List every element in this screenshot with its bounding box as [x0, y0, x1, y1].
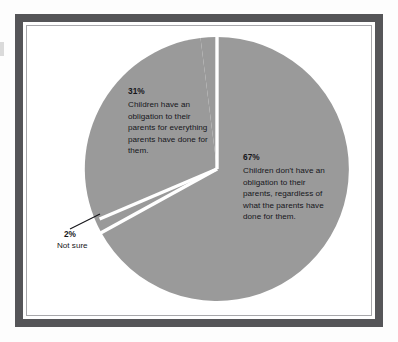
leader-line-2pct — [70, 214, 100, 229]
pie-chart-figure: 31% Children have an obligation to their… — [0, 0, 398, 342]
scan-artifact — [0, 42, 4, 56]
slice-label-2-text: Not sure — [57, 240, 117, 251]
slice-label-2: 2% Not sure — [57, 229, 117, 252]
slice-label-31-percent: 31% — [128, 86, 214, 97]
slice-label-67-text: Children don't have an obligation to the… — [243, 165, 335, 222]
slice-label-31-text: Children have an obligation to their par… — [128, 99, 214, 156]
slice-label-67-percent: 67% — [243, 152, 335, 163]
slice-label-31: 31% Children have an obligation to their… — [128, 86, 214, 156]
slice-label-2-percent: 2% — [64, 229, 117, 240]
slice-label-67: 67% Children don't have an obligation to… — [243, 152, 335, 222]
